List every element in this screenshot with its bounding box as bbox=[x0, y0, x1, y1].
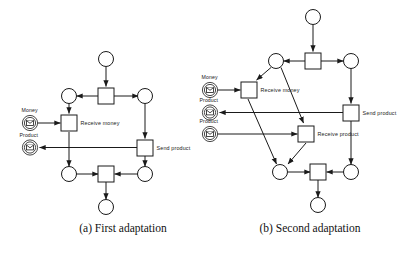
caption-first-adaptation: (a) First adaptation bbox=[43, 222, 203, 234]
place-a-end bbox=[99, 200, 114, 215]
port-b-product-out-label: Product bbox=[200, 97, 219, 103]
transition-a-split bbox=[98, 88, 114, 104]
edge-b-receive-product-to-plow bbox=[288, 143, 306, 164]
label-b-send-product: Send product bbox=[363, 110, 397, 116]
place-b-lower-left bbox=[273, 165, 288, 180]
port-b-money-label: Money bbox=[202, 74, 218, 80]
label-a-receive-money: Receive money bbox=[81, 120, 120, 126]
transition-a-send-product bbox=[137, 140, 153, 156]
port-a-product-label: Product bbox=[20, 132, 39, 138]
port-b-money bbox=[202, 82, 217, 97]
edge-b-pleft-to-receive-product bbox=[281, 68, 304, 124]
place-a-lower-left bbox=[62, 167, 77, 182]
place-b-lower-right bbox=[344, 165, 359, 180]
transition-b-send-product bbox=[343, 105, 359, 121]
caption-second-adaptation: (b) Second adaptation bbox=[230, 222, 390, 234]
diagram-second-adaptation: Money Product Product Receive money Send… bbox=[200, 10, 397, 213]
port-a-product bbox=[22, 140, 37, 155]
place-b-right bbox=[344, 54, 359, 69]
port-a-money bbox=[22, 115, 37, 130]
transition-b-join bbox=[310, 164, 326, 180]
label-b-receive-money: Receive money bbox=[261, 87, 300, 93]
transition-b-receive-product bbox=[298, 126, 314, 142]
place-b-end bbox=[311, 198, 326, 213]
diagram-first-adaptation: Money Product Receive money Send product bbox=[0, 0, 413, 258]
transition-a-join bbox=[98, 166, 114, 182]
place-b-left bbox=[269, 54, 284, 69]
port-a-money-label: Money bbox=[22, 107, 38, 113]
place-a-start bbox=[99, 52, 114, 67]
place-b-start bbox=[306, 10, 321, 25]
diagram-a-edges bbox=[38, 67, 145, 200]
place-a-right bbox=[138, 89, 153, 104]
port-b-product-in bbox=[202, 126, 217, 141]
label-a-send-product: Send product bbox=[157, 145, 191, 151]
figure-petri-net-adaptations: Money Product Receive money Send product bbox=[0, 0, 413, 258]
place-a-lower-right bbox=[138, 167, 153, 182]
edge-b-pleft-to-receive-money bbox=[257, 68, 272, 81]
port-b-product-in-label: Product bbox=[200, 118, 219, 124]
label-b-receive-product: Receive product bbox=[318, 131, 360, 137]
transition-b-receive-money bbox=[241, 82, 257, 98]
edge-b-receive-money-to-plow bbox=[248, 99, 277, 164]
place-a-left bbox=[62, 89, 77, 104]
transition-a-receive-money bbox=[61, 115, 77, 131]
transition-b-split bbox=[305, 53, 321, 69]
